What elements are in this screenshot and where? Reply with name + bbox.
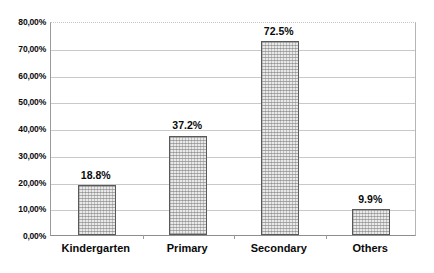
- y-axis-tick-label: 40,00%: [0, 125, 46, 134]
- y-axis-tick-label: 30,00%: [0, 152, 46, 161]
- y-axis-tick-label: 80,00%: [0, 18, 46, 27]
- x-axis-tick: [326, 235, 327, 239]
- bar-value-label: 72.5%: [264, 26, 294, 37]
- gridline: [51, 103, 415, 104]
- bar: [78, 185, 116, 235]
- y-axis-tick-label: 10,00%: [0, 205, 46, 214]
- y-axis-tick-label: 0,00%: [0, 232, 46, 241]
- bar-value-label: 18.8%: [81, 170, 111, 181]
- bar: [352, 209, 390, 235]
- bar-value-label: 9.9%: [358, 194, 382, 205]
- bar: [169, 136, 207, 236]
- y-axis-tick-label: 60,00%: [0, 71, 46, 80]
- x-axis-category-label: Primary: [167, 243, 208, 254]
- bar-chart: 80,00%70,00%60,00%50,00%40,00%30,00%20,0…: [0, 0, 434, 273]
- bar-value-label: 37.2%: [172, 120, 202, 131]
- x-axis-category-label: Secondary: [251, 243, 307, 254]
- y-axis-tick-label: 50,00%: [0, 98, 46, 107]
- bar: [261, 41, 299, 235]
- x-axis-category-label: Others: [353, 243, 388, 254]
- gridline: [51, 130, 415, 131]
- y-axis-tick-label: 70,00%: [0, 45, 46, 54]
- gridline: [51, 50, 415, 51]
- x-axis-tick: [143, 235, 144, 239]
- gridline: [51, 77, 415, 78]
- x-axis-tick: [234, 235, 235, 239]
- y-axis-tick-label: 20,00%: [0, 178, 46, 187]
- gridline: [51, 157, 415, 158]
- x-axis-category-label: Kindergarten: [62, 243, 130, 254]
